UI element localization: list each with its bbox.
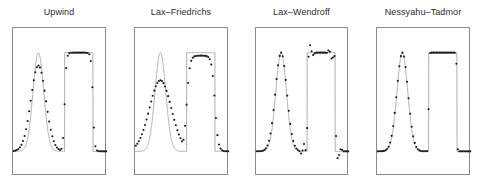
exact-solution-curve — [256, 53, 349, 152]
plot-frame-upwind — [12, 27, 106, 175]
plot-frame-lax-wendroff — [255, 27, 348, 175]
panel-title-lax-friedrichs: Lax–Friedrichs — [134, 7, 228, 17]
exact-solution-curve — [135, 53, 229, 152]
panel-title-nessyahu-tadmor: Nessyahu–Tadmor — [376, 7, 470, 17]
plot-canvas-lax-wendroff — [256, 28, 349, 176]
panel-title-upwind: Upwind — [12, 7, 106, 17]
panel-upwind: Upwind — [12, 0, 106, 188]
exact-solution-curve — [13, 53, 107, 152]
panel-lax-friedrichs: Lax–Friedrichs — [134, 0, 228, 188]
plot-canvas-upwind — [13, 28, 107, 176]
plot-frame-nessyahu-tadmor — [376, 27, 470, 175]
panel-nessyahu-tadmor: Nessyahu–Tadmor — [376, 0, 470, 188]
panel-lax-wendroff: Lax–Wendroff — [255, 0, 348, 188]
figure-panel-grid: UpwindLax–FriedrichsLax–WendroffNessyahu… — [0, 0, 488, 188]
plot-canvas-nessyahu-tadmor — [377, 28, 471, 176]
panel-title-lax-wendroff: Lax–Wendroff — [255, 7, 348, 17]
plot-frame-lax-friedrichs — [134, 27, 228, 175]
plot-canvas-lax-friedrichs — [135, 28, 229, 176]
